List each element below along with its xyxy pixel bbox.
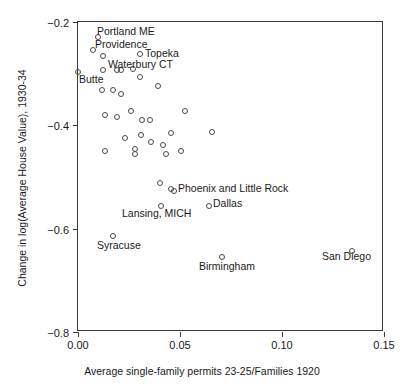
- data-point: [168, 130, 174, 136]
- data-point: [178, 148, 184, 154]
- data-point: [110, 233, 116, 239]
- data-point: [128, 108, 134, 114]
- data-point: [99, 87, 105, 93]
- data-point: [139, 117, 145, 123]
- data-point: [122, 135, 128, 141]
- data-point: [102, 112, 108, 118]
- y-tick-mark: −0.6: [73, 229, 78, 230]
- data-point: [157, 180, 163, 186]
- point-label: Providence: [95, 38, 148, 50]
- data-point: [182, 108, 188, 114]
- point-label: Syracuse: [97, 239, 141, 251]
- data-point: [148, 139, 154, 145]
- point-label: San Diego: [322, 250, 371, 262]
- point-label: Phoenix and Little Rock: [178, 182, 288, 194]
- x-tick-label: 0.00: [67, 339, 88, 351]
- point-label: Waterbury CT: [108, 58, 173, 70]
- data-point: [206, 203, 212, 209]
- y-tick-label: −0.2: [47, 15, 69, 31]
- y-tick-mark: −0.2: [73, 22, 78, 23]
- data-point: [171, 188, 177, 194]
- x-tick-mark: [180, 332, 181, 337]
- y-axis-title: Change in log(Average House Value), 1930…: [16, 23, 28, 333]
- scatter-plot-figure: −0.2−0.4−0.6−0.8 0.000.050.100.15 Portla…: [0, 0, 404, 392]
- point-label: Lansing, MICH: [122, 207, 191, 219]
- y-tick-mark: −0.4: [73, 125, 78, 126]
- data-point: [102, 148, 108, 154]
- y-tick-label: −0.6: [47, 222, 69, 238]
- data-point: [114, 114, 120, 120]
- x-tick-mark: [78, 332, 79, 337]
- data-point: [147, 117, 153, 123]
- y-tick-label: −0.8: [47, 325, 69, 341]
- y-tick-label: −0.4: [47, 118, 69, 134]
- data-point: [137, 51, 143, 57]
- data-point: [100, 67, 106, 73]
- data-point: [118, 91, 124, 97]
- data-point: [110, 87, 116, 93]
- x-tick-mark: [384, 332, 385, 337]
- data-point: [100, 53, 106, 59]
- x-tick-label: 0.15: [373, 339, 394, 351]
- data-point: [155, 83, 161, 89]
- x-axis-title: Average single-family permits 23-25/Fami…: [0, 365, 404, 377]
- point-label: Butte: [79, 73, 104, 85]
- x-tick-label: 0.10: [271, 339, 292, 351]
- point-label: Dallas: [213, 197, 242, 209]
- point-label: Portland ME: [97, 25, 155, 37]
- data-point: [160, 142, 166, 148]
- data-point: [137, 74, 143, 80]
- x-tick-mark: [282, 332, 283, 337]
- data-point: [138, 132, 144, 138]
- point-label: Birmingham: [199, 260, 255, 272]
- data-point: [163, 151, 169, 157]
- data-point: [132, 151, 138, 157]
- x-tick-label: 0.05: [169, 339, 190, 351]
- data-point: [209, 129, 215, 135]
